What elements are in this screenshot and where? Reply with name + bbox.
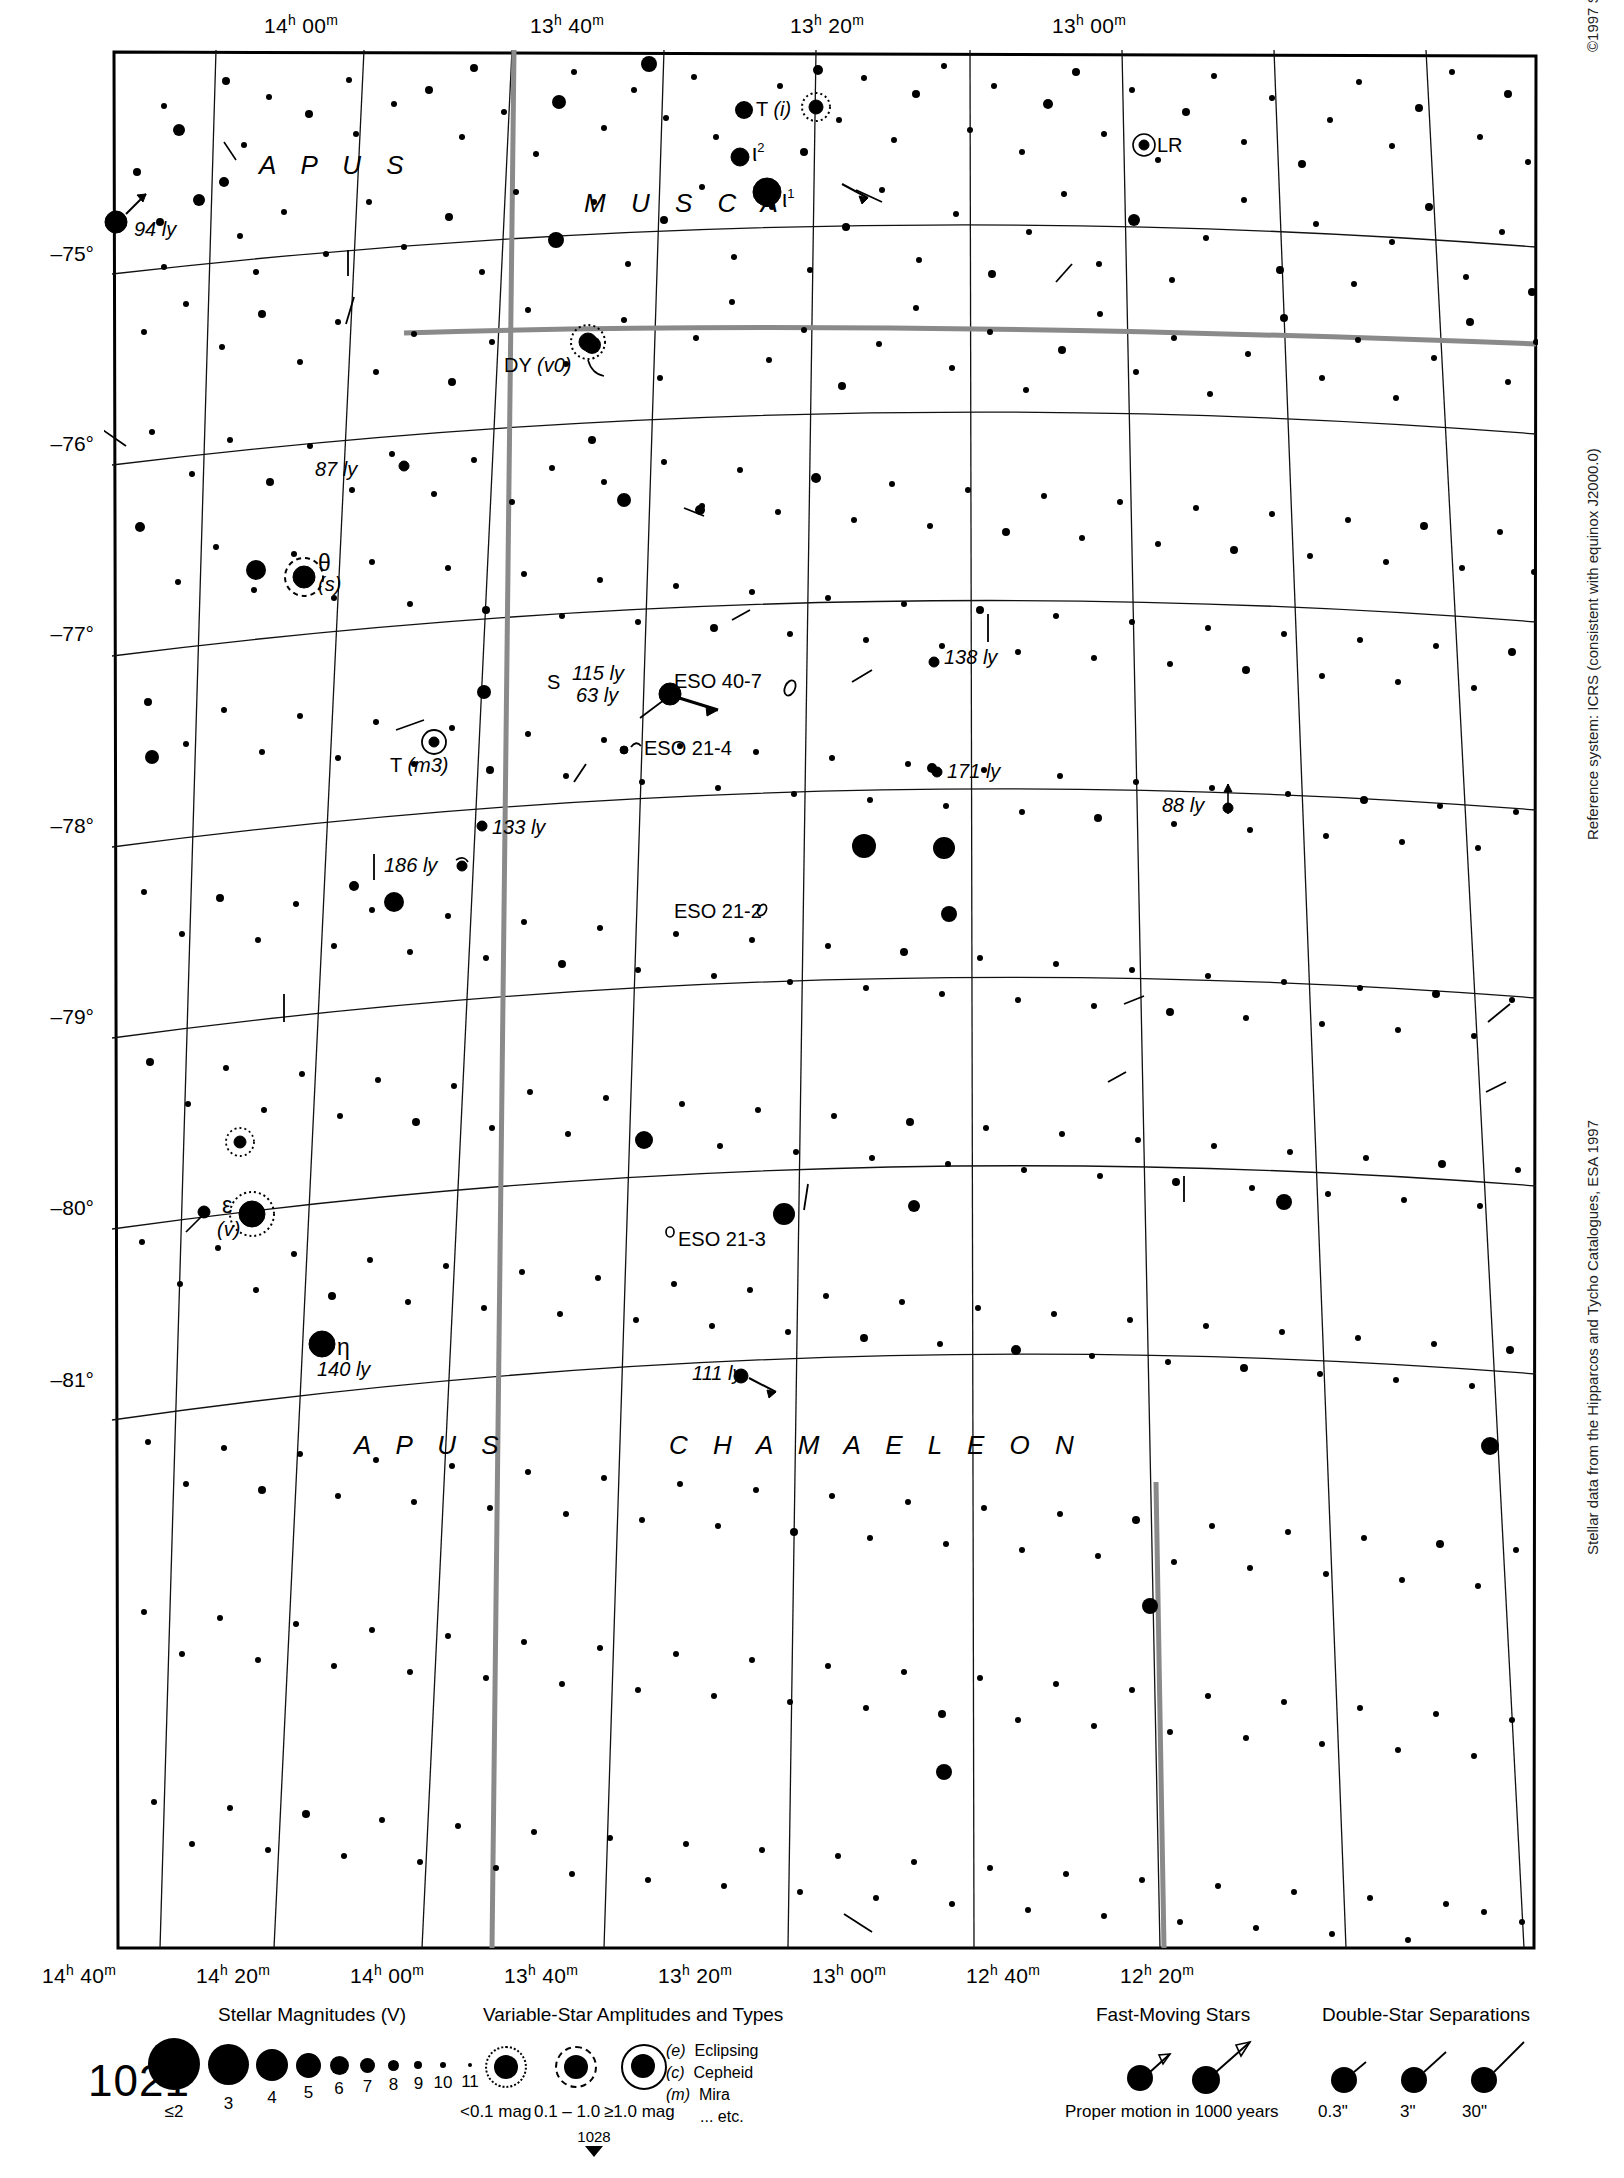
mag-label-4: 4 (256, 2088, 288, 2108)
label-iota1: ι1 (782, 186, 794, 213)
mag-dot-6 (330, 2056, 349, 2075)
label-S: S (547, 671, 560, 694)
ra-tick-bottom-3: 13h 40m (504, 1962, 578, 1988)
ra-tick-bottom-2: 14h 00m (350, 1962, 424, 1988)
variable-type-eclipsing: (e) Eclipsing (666, 2042, 758, 2060)
mag-label-9: 9 (408, 2074, 429, 2094)
copyright-text: ©1997 Sky Publishing Corporation (1584, 0, 1601, 52)
dec-tick-76: –76° (24, 432, 94, 456)
ra-tick-bottom-7: 12h 20m (1120, 1962, 1194, 1988)
mag-label-5: 5 (296, 2083, 321, 2103)
constellation-apus-bottom: A P U S (354, 1430, 508, 1461)
mag-label-2: ≤2 (148, 2102, 200, 2122)
variable-core-dashed (564, 2055, 588, 2079)
chart-canvas (104, 42, 1544, 1980)
mag-dot-5 (296, 2053, 321, 2078)
data-source-text: Stellar data from the Hipparcos and Tych… (1584, 1120, 1601, 1555)
star-iota2 (731, 148, 749, 166)
label-ESO-40-7: ESO 40-7 (674, 670, 762, 693)
label-T-i: T (i) (756, 98, 791, 121)
label-LR: LR (1157, 134, 1183, 157)
fast-moving-sample (1098, 2036, 1278, 2098)
variable-sample-dashed (548, 2042, 604, 2092)
variable-label-dotted: <0.1 mag (460, 2102, 531, 2122)
labeled-stars (104, 93, 1510, 1932)
label-115ly: 115 ly (572, 662, 624, 685)
mag-label-6: 6 (328, 2079, 350, 2099)
label-theta-type: (s) (318, 573, 341, 596)
label-eta: η (337, 1334, 350, 1361)
legend-variables-title: Variable-Star Amplitudes and Types (483, 2004, 783, 2026)
ra-tick-bottom-5: 13h 00m (812, 1962, 886, 1988)
label-epsilon: ε (222, 1192, 232, 1219)
ra-tick-bottom-4: 13h 20m (658, 1962, 732, 1988)
ra-tick-top-2: 13h 20m (790, 12, 864, 38)
variable-type-cepheid: (c) Cepheid (666, 2064, 753, 2082)
next-page-pointer[interactable]: 1028 (558, 2128, 630, 2157)
ra-tick-bottom-1: 14h 20m (196, 1962, 270, 1988)
constellation-apus-top: A P U S (259, 150, 413, 181)
legend-magnitudes-title: Stellar Magnitudes (V) (218, 2004, 406, 2026)
label-ESO-21-4: ESO 21-4 (644, 737, 732, 760)
label-87ly: 87 ly (315, 458, 357, 481)
ra-tick-bottom-0: 14h 40m (42, 1962, 116, 1988)
dec-tick-75: –75° (24, 242, 94, 266)
chart-legend: 1021 Stellar Magnitudes (V) ≤2 3 4 5 6 7… (0, 1998, 1624, 2178)
variable-type-mira: (m) Mira (666, 2086, 730, 2104)
variable-label-solid: ≥1.0 mag (604, 2102, 675, 2122)
mag-dot-4 (256, 2049, 288, 2081)
star-eta (309, 1331, 335, 1357)
mag-dot-8 (388, 2060, 399, 2071)
label-epsilon-type: (v) (217, 1218, 240, 1241)
variable-sample-solid (616, 2042, 672, 2092)
star-T-m3 (429, 737, 439, 747)
legend-doublestars-title: Double-Star Separations (1322, 2004, 1530, 2026)
dec-tick-78: –78° (24, 814, 94, 838)
mag-dot-11 (468, 2063, 472, 2067)
dec-tick-80: –80° (24, 1196, 94, 1220)
label-111ly: 111 ly (692, 1362, 742, 1385)
variable-label-dashed: 0.1 – 1.0 (534, 2102, 600, 2122)
label-ESO-21-2: ESO 21-2 (674, 900, 762, 923)
variable-core-solid (631, 2054, 655, 2078)
star-DY (579, 333, 597, 351)
legend-fastmoving-caption: Proper motion in 1000 years (1065, 2102, 1279, 2122)
mag-dot-9 (414, 2061, 422, 2069)
variable-type-etc: ... etc. (700, 2108, 744, 2126)
label-138ly: 138 ly (944, 646, 997, 669)
label-iota2: ι2 (752, 140, 764, 167)
label-133ly: 133 ly (492, 816, 545, 839)
star-94ly (105, 211, 127, 233)
label-94ly: 94 ly (134, 218, 176, 241)
ra-tick-top-3: 13h 00m (1052, 12, 1126, 38)
dec-tick-79: –79° (24, 1005, 94, 1029)
declination-lines (112, 225, 1536, 1420)
mag-dot-7 (360, 2058, 375, 2073)
label-ESO-21-3: ESO 21-3 (678, 1228, 766, 1251)
legend-fastmoving-title: Fast-Moving Stars (1096, 2004, 1250, 2026)
label-T-m3: T (m3) (390, 754, 449, 777)
variable-sample-dotted (478, 2042, 534, 2092)
star-chart: 14h 00m 13h 40m 13h 20m 13h 00m –75° –76… (104, 42, 1544, 1980)
double-star-label-1: 3" (1400, 2102, 1416, 2122)
label-88ly: 88 ly (1162, 794, 1204, 817)
mag-dot-3 (208, 2044, 249, 2085)
label-140ly: 140 ly (317, 1358, 370, 1381)
mag-dot-2 (148, 2038, 200, 2090)
mag-label-3: 3 (208, 2094, 249, 2114)
constellation-chamaeleon: C H A M A E L E O N (669, 1430, 1083, 1461)
variable-core-dotted (494, 2055, 518, 2079)
mag-label-10: 10 (431, 2073, 455, 2093)
label-171ly: 171 ly (947, 760, 1000, 783)
mag-label-8: 8 (383, 2075, 404, 2095)
label-186ly: 186 ly (384, 854, 437, 877)
dec-tick-77: –77° (24, 622, 94, 646)
ra-tick-top-1: 13h 40m (530, 12, 604, 38)
ra-tick-top-0: 14h 00m (264, 12, 338, 38)
star-theta (293, 566, 315, 588)
mag-label-7: 7 (357, 2077, 378, 2097)
label-DY: DY (v0) (504, 354, 571, 377)
ra-tick-bottom-6: 12h 40m (966, 1962, 1040, 1988)
reference-system-text: Reference system: ICRS (consistent with … (1584, 448, 1601, 840)
label-63ly: 63 ly (576, 684, 618, 707)
